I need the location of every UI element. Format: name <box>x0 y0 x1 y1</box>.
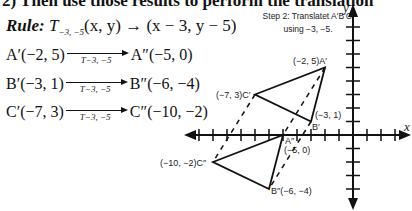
coordinate-graph: x y (−2, 5)A′ (−3, 1) B′ (−7, 3)C′ A″ (−… <box>0 0 412 211</box>
point-label-c2: (−10, −2)C″ <box>160 158 207 168</box>
triangle-a2b2c2 <box>213 135 283 189</box>
point-label-b1-name: B′ <box>312 122 320 132</box>
point-label-c1: (−7, 3)C′ <box>216 90 251 100</box>
y-axis-down-arrow-icon <box>348 198 358 210</box>
point-label-a2-coord: (−5, 0) <box>284 145 310 155</box>
y-axis-label: y <box>341 0 349 15</box>
point-label-b2: B″(−6, −4) <box>271 186 312 196</box>
point-label-b1-coord: (−3, 1) <box>315 110 341 120</box>
y-axis-up-arrow-icon <box>348 4 358 17</box>
x-axis-label: x <box>403 119 410 134</box>
x-axis-left-arrow-icon <box>184 130 196 140</box>
point-label-a1: (−2, 5)A′ <box>293 56 327 66</box>
